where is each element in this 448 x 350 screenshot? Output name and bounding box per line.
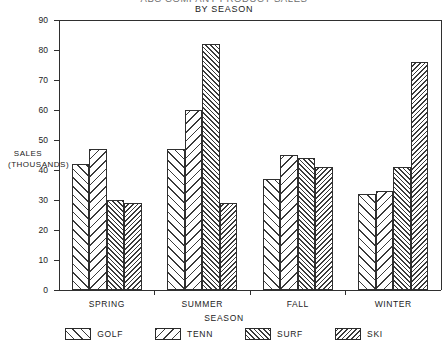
bar-summer-ski: [220, 203, 238, 290]
bar-winter-surf: [393, 167, 411, 290]
x-tick-label: SPRING: [89, 299, 125, 309]
x-tick-label: WINTER: [375, 299, 412, 309]
bar-fall-golf: [263, 179, 281, 290]
bar-spring-ski: [124, 203, 142, 290]
legend-label-ski: SKI: [367, 329, 383, 339]
bar-winter-tenn: [376, 191, 394, 290]
bar-fall-tenn: [280, 155, 298, 290]
y-tick-label: 0: [22, 285, 48, 295]
bar-summer-golf: [167, 149, 185, 290]
legend-entry-golf[interactable]: GOLF: [65, 328, 123, 340]
legend-swatch-ski: [335, 328, 361, 340]
y-tick-label: 70: [22, 75, 48, 85]
plot-area: [0, 0, 448, 350]
bar-winter-golf: [358, 194, 376, 290]
bar-spring-tenn: [89, 149, 107, 290]
legend-label-surf: SURF: [277, 329, 303, 339]
y-tick-label: 50: [22, 135, 48, 145]
legend-entry-ski[interactable]: SKI: [335, 328, 383, 340]
legend-swatch-surf: [245, 328, 271, 340]
x-tick-label: FALL: [287, 299, 309, 309]
chart-legend: GOLFTENNSURFSKI: [0, 328, 448, 340]
bar-chart: ABC COMPANY PRODUCT SALES BY SEASON SALE…: [0, 0, 448, 350]
legend-swatch-tenn: [155, 328, 181, 340]
y-tick-label: 40: [22, 165, 48, 175]
y-tick-label: 90: [22, 15, 48, 25]
legend-entry-surf[interactable]: SURF: [245, 328, 303, 340]
y-tick-label: 10: [22, 255, 48, 265]
bar-spring-surf: [107, 200, 125, 290]
bar-summer-tenn: [185, 110, 203, 290]
y-tick-label: 60: [22, 105, 48, 115]
x-tick-label: SUMMER: [182, 299, 223, 309]
legend-label-tenn: TENN: [187, 329, 213, 339]
legend-entry-tenn[interactable]: TENN: [155, 328, 213, 340]
bar-spring-golf: [72, 164, 90, 290]
legend-swatch-golf: [65, 328, 91, 340]
bar-fall-surf: [298, 158, 316, 290]
y-tick-label: 30: [22, 195, 48, 205]
bar-fall-ski: [315, 167, 333, 290]
bar-summer-surf: [202, 44, 220, 290]
y-tick-label: 20: [22, 225, 48, 235]
bar-winter-ski: [411, 62, 429, 290]
y-tick-label: 80: [22, 45, 48, 55]
legend-label-golf: GOLF: [97, 329, 123, 339]
